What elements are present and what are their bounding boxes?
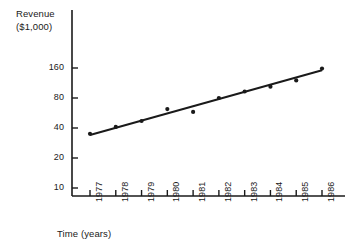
data-point — [268, 85, 272, 89]
data-point — [114, 125, 118, 129]
revenue-chart: Revenue($1,000) Time (years) 10204080160… — [0, 0, 354, 248]
data-point — [88, 132, 92, 136]
y-axis-tick-label: 160 — [34, 62, 64, 72]
x-axis-tick-label: 1984 — [274, 182, 284, 202]
data-point — [191, 110, 195, 114]
x-axis-tick-label: 1985 — [300, 182, 310, 202]
y-axis-tick-label: 80 — [34, 92, 64, 102]
x-axis-tick-label: 1979 — [146, 182, 156, 202]
x-axis-tick-label: 1982 — [223, 182, 233, 202]
axis-lines — [72, 10, 345, 196]
data-point — [217, 96, 221, 100]
data-point — [243, 89, 247, 93]
data-point — [294, 78, 298, 82]
data-point — [320, 66, 324, 70]
x-axis-tick-label: 1980 — [171, 182, 181, 202]
x-axis-tick-label: 1978 — [120, 182, 130, 202]
data-point — [165, 107, 169, 111]
y-axis-tick-label: 20 — [34, 152, 64, 162]
trend-line — [90, 70, 322, 135]
x-axis-tick-label: 1977 — [94, 182, 104, 202]
y-axis-tick-label: 40 — [34, 122, 64, 132]
y-axis-ticks — [72, 68, 78, 188]
x-axis-tick-label: 1981 — [197, 182, 207, 202]
x-axis-tick-label: 1983 — [249, 182, 259, 202]
y-axis-tick-label: 10 — [34, 182, 64, 192]
x-axis-tick-label: 1986 — [326, 182, 336, 202]
trend-line-segment — [90, 70, 322, 135]
data-point — [139, 119, 143, 123]
